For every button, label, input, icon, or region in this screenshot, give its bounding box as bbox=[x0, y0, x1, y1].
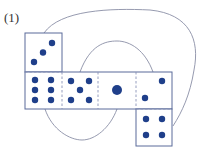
face-outlines bbox=[25, 33, 172, 146]
cube-net-diagram bbox=[0, 0, 199, 151]
face-1-pips bbox=[112, 85, 122, 95]
face-bottom-right bbox=[136, 109, 172, 146]
middle-row bbox=[25, 72, 172, 109]
top-inner-arc bbox=[80, 41, 153, 72]
bottom-arc bbox=[45, 109, 117, 140]
